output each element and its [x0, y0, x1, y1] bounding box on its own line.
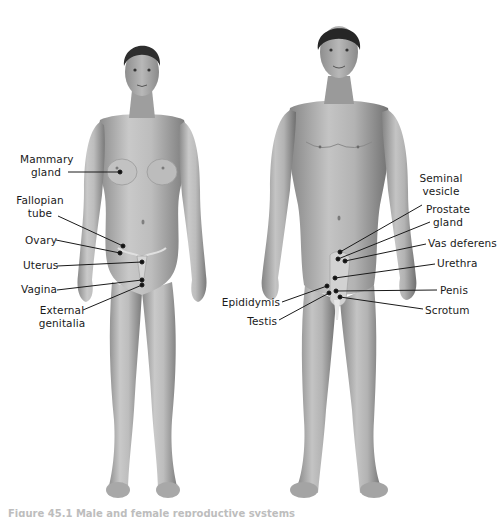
label-mammary-gland: Mammary gland	[20, 153, 72, 178]
label-external-genitalia: External genitalia	[36, 304, 88, 329]
label-prostate-gland: Prostate gland	[423, 203, 473, 228]
label-fallopian-tube: Fallopian tube	[14, 194, 66, 219]
label-scrotum: Scrotum	[425, 304, 470, 317]
label-line: Seminal	[416, 172, 466, 185]
label-uterus: Uterus	[23, 259, 58, 272]
label-vagina: Vagina	[21, 283, 57, 296]
label-line: gland	[20, 166, 72, 179]
label-line: Prostate	[423, 203, 473, 216]
label-urethra: Urethra	[437, 257, 477, 270]
label-penis: Penis	[440, 284, 468, 297]
label-line: tube	[14, 207, 66, 220]
figures-illustration	[0, 0, 503, 517]
anatomy-diagram: Mammary gland Fallopian tube Ovary Uteru…	[0, 0, 503, 517]
label-line: Fallopian	[14, 194, 66, 207]
male-figure	[262, 26, 417, 498]
label-line: Mammary	[20, 153, 72, 166]
label-line: genitalia	[36, 317, 88, 330]
label-seminal-vesicle: Seminal vesicle	[416, 172, 466, 197]
label-line: gland	[423, 216, 473, 229]
label-ovary: Ovary	[25, 234, 57, 247]
label-line: External	[36, 304, 88, 317]
label-line: vesicle	[416, 185, 466, 198]
female-figure	[77, 46, 206, 498]
label-vas-deferens: Vas deferens	[428, 237, 497, 250]
figure-caption: Figure 45.1 Male and female reproductive…	[8, 508, 295, 517]
label-testis: Testis	[240, 315, 277, 328]
label-epididymis: Epididymis	[220, 296, 280, 309]
